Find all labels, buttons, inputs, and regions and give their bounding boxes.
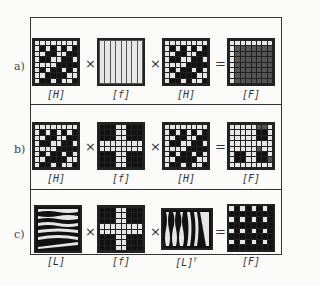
matrix-cell: [40, 73, 44, 77]
matrix-cell: [241, 130, 245, 134]
matrix-cell: [127, 125, 131, 129]
matrix-cell: [116, 208, 120, 212]
matrix-cell: [257, 46, 261, 50]
matrix-cell: [73, 46, 77, 50]
matrix-cell: [127, 141, 131, 145]
matrix-cell: [170, 52, 174, 56]
matrix-cell: [262, 46, 266, 50]
matrix-cell: [100, 141, 104, 145]
matrix-cell: [263, 223, 268, 228]
matrix-cell: [246, 217, 251, 222]
matrix-cell: [46, 68, 50, 72]
matrix-cell: [105, 141, 109, 145]
matrix-cell: [165, 163, 169, 167]
matrix-cell: [203, 141, 207, 145]
matrix-cell: [132, 213, 136, 217]
result-matrix: [227, 122, 275, 170]
matrix-cell: [187, 41, 191, 45]
matrix-cell: [192, 57, 196, 61]
matrix-cell: [240, 234, 245, 239]
matrix-cell: [127, 78, 131, 83]
matrix-cell: [235, 212, 240, 217]
matrix-cell: [181, 130, 185, 134]
matrix-cell: [181, 152, 185, 156]
matrix-cell: [235, 147, 239, 151]
matrix-cell: [62, 79, 66, 83]
matrix-cell: [235, 240, 240, 245]
matrix-cell: [138, 246, 142, 250]
matrix-cell: [176, 130, 180, 134]
row-divider: [30, 189, 282, 190]
matrix-cell: [67, 57, 71, 61]
matrix-cell: [105, 147, 109, 151]
matrix-cell: [165, 147, 169, 151]
matrix-cell: [127, 208, 131, 212]
matrix-label-F: [F]: [227, 256, 275, 267]
matrix-cell: [240, 212, 245, 217]
matrix-cell: [51, 52, 55, 56]
matrix-cell: [138, 136, 142, 140]
matrix-cell: [246, 240, 251, 245]
matrix-cell: [229, 212, 234, 217]
matrix-cell: [62, 125, 66, 129]
matrix-cell: [138, 152, 142, 156]
matrix-cell: [170, 46, 174, 50]
matrix-cell: [170, 79, 174, 83]
matrix-cell: [105, 163, 109, 167]
matrix-cell: [257, 245, 262, 250]
matrix-cell: [165, 125, 169, 129]
matrix-cell: [181, 52, 185, 56]
matrix-cell: [257, 147, 261, 151]
matrix-cell: [241, 63, 245, 67]
matrix-cell: [165, 68, 169, 72]
matrix-cell: [57, 130, 61, 134]
matrix-cell: [122, 130, 126, 134]
matrix-cell: [241, 163, 245, 167]
matrix-cell: [176, 79, 180, 83]
matrix-cell: [105, 136, 109, 140]
matrix-cell: [127, 235, 131, 239]
matrix-cell: [51, 147, 55, 151]
matrix-cell: [165, 79, 169, 83]
matrix-cell: [62, 41, 66, 45]
matrix-cell: [40, 147, 44, 151]
matrix-cell: [235, 46, 239, 50]
matrix-cell: [197, 68, 201, 72]
matrix-cell: [40, 63, 44, 67]
matrix-cell: [40, 79, 44, 83]
matrix-cell: [246, 136, 250, 140]
matrix-cell: [240, 240, 245, 245]
matrix-cell: [116, 152, 120, 156]
matrix-cell: [116, 147, 120, 151]
matrix-cell: [67, 157, 71, 161]
matrix-cell: [257, 240, 262, 245]
matrix-cell: [165, 141, 169, 145]
result-matrix: [227, 204, 275, 252]
matrix-label-H: [H]: [162, 89, 210, 100]
matrix-cell: [122, 213, 126, 217]
matrix-cell: [116, 78, 120, 83]
matrix-cell: [176, 125, 180, 129]
matrix-cell: [203, 157, 207, 161]
matrix-cell: [35, 136, 39, 140]
matrix-cell: [268, 57, 272, 61]
matrix-cell: [62, 163, 66, 167]
matrix-cell: [235, 57, 239, 61]
matrix-cell: [165, 130, 169, 134]
matrix-cell: [241, 147, 245, 151]
matrix-cell: [181, 147, 185, 151]
matrix-cell: [132, 240, 136, 244]
matrix-cell: [170, 73, 174, 77]
matrix-cell: [100, 130, 104, 134]
matrix-cell: [187, 73, 191, 77]
matrix-cell: [187, 68, 191, 72]
matrix-cell: [100, 208, 104, 212]
matrix-cell: [252, 147, 256, 151]
matrix-label-F: [F]: [227, 173, 275, 184]
matrix-cell: [35, 130, 39, 134]
matrix-cell: [73, 157, 77, 161]
matrix-cell: [192, 52, 196, 56]
matrix-cell: [229, 229, 234, 234]
multiply-operator: ×: [150, 224, 161, 239]
matrix-cell: [192, 152, 196, 156]
